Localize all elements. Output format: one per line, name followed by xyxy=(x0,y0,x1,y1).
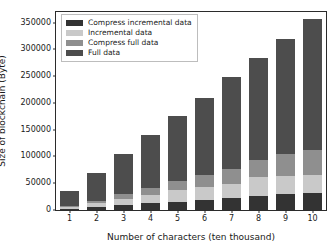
y-axis-label: Size of blockchain (Byte) xyxy=(0,55,7,167)
x-tick-mark xyxy=(123,210,124,213)
bar-segment xyxy=(114,199,133,205)
x-tick-label: 5 xyxy=(175,215,180,223)
legend-swatch-compress-incremental-data xyxy=(66,20,83,26)
x-tick-mark xyxy=(69,210,70,213)
bar-segment xyxy=(303,19,322,150)
x-tick-label: 10 xyxy=(307,215,317,223)
bar-segment xyxy=(141,203,160,210)
x-tick-label: 1 xyxy=(67,215,72,223)
x-tick-mark xyxy=(96,210,97,213)
legend-item: Compress incremental data xyxy=(66,18,192,28)
legend-swatch-compress-full-data xyxy=(66,40,83,46)
legend-item: Compress full data xyxy=(66,38,192,48)
y-tick-label: 300000 xyxy=(20,45,56,53)
x-tick-mark xyxy=(204,210,205,213)
bar-segment xyxy=(276,154,295,175)
bar xyxy=(276,12,295,210)
x-tick-label: 9 xyxy=(283,215,288,223)
y-tick-mark xyxy=(53,156,56,157)
bar-segment xyxy=(276,194,295,210)
bar-segment xyxy=(249,58,268,160)
x-tick-mark xyxy=(285,210,286,213)
y-tick-mark xyxy=(53,76,56,77)
x-tick-label: 2 xyxy=(94,215,99,223)
chart-legend: Compress incremental data Incremental da… xyxy=(61,14,198,62)
legend-label: Compress full data xyxy=(88,39,158,47)
bar-segment xyxy=(114,194,133,199)
legend-label: Incremental data xyxy=(88,29,152,37)
y-tick-label: 50000 xyxy=(26,179,56,187)
y-tick-label: 100000 xyxy=(20,152,56,160)
chart-figure: Size of blockchain (Byte) 05000010000015… xyxy=(0,0,335,250)
x-tick-label: 8 xyxy=(256,215,261,223)
x-tick-mark xyxy=(258,210,259,213)
bar-segment xyxy=(303,193,322,210)
bar-segment xyxy=(168,181,187,190)
legend-label: Compress incremental data xyxy=(88,19,192,27)
bar-segment xyxy=(195,98,214,175)
bar-segment xyxy=(249,160,268,177)
bar-segment xyxy=(222,169,241,183)
bar-segment xyxy=(60,207,79,209)
x-tick-mark xyxy=(150,210,151,213)
bar-segment xyxy=(60,191,79,206)
bar-segment xyxy=(114,154,133,195)
bar-segment xyxy=(222,184,241,198)
x-tick-label: 4 xyxy=(148,215,153,223)
y-tick-mark xyxy=(53,183,56,184)
bar-segment xyxy=(195,175,214,188)
y-tick-label: 200000 xyxy=(20,99,56,107)
x-tick-mark xyxy=(231,210,232,213)
bar-segment xyxy=(87,201,106,204)
y-tick-mark xyxy=(53,22,56,23)
bar-segment xyxy=(87,173,106,201)
bar-segment xyxy=(87,207,106,210)
bar-segment xyxy=(141,195,160,203)
y-tick-mark xyxy=(53,129,56,130)
x-tick-mark xyxy=(177,210,178,213)
bar-segment xyxy=(168,116,187,181)
bar-segment xyxy=(168,190,187,202)
bar-segment xyxy=(60,206,79,207)
x-tick-label: 6 xyxy=(202,215,207,223)
bar-segment xyxy=(141,135,160,188)
bar-segment xyxy=(222,77,241,169)
x-tick-label: 7 xyxy=(229,215,234,223)
bar-segment xyxy=(276,176,295,195)
bar-segment xyxy=(168,202,187,210)
bar-segment xyxy=(87,203,106,206)
bar xyxy=(249,12,268,210)
legend-item: Incremental data xyxy=(66,28,192,38)
bar-segment xyxy=(222,198,241,210)
bar-segment xyxy=(303,150,322,176)
bar-segment xyxy=(195,200,214,210)
bar-segment xyxy=(249,196,268,210)
legend-item: Full data xyxy=(66,48,192,58)
y-tick-mark xyxy=(53,102,56,103)
bar-segment xyxy=(249,177,268,196)
x-tick-label: 3 xyxy=(121,215,126,223)
y-tick-label: 350000 xyxy=(20,19,56,27)
y-tick-label: 250000 xyxy=(20,72,56,80)
y-tick-mark xyxy=(53,210,56,211)
bar-segment xyxy=(114,205,133,210)
x-tick-mark xyxy=(312,210,313,213)
y-tick-mark xyxy=(53,49,56,50)
bar xyxy=(303,12,322,210)
legend-label: Full data xyxy=(88,49,120,57)
bar-segment xyxy=(195,187,214,200)
legend-swatch-incremental-data xyxy=(66,30,83,36)
x-axis-label: Number of characters (ten thousand) xyxy=(107,233,275,242)
bar-segment xyxy=(60,209,79,210)
y-tick-label: 150000 xyxy=(20,126,56,134)
bar-segment xyxy=(303,175,322,193)
bar-segment xyxy=(276,39,295,155)
bar-segment xyxy=(141,188,160,195)
legend-swatch-full-data xyxy=(66,50,83,56)
bar xyxy=(222,12,241,210)
